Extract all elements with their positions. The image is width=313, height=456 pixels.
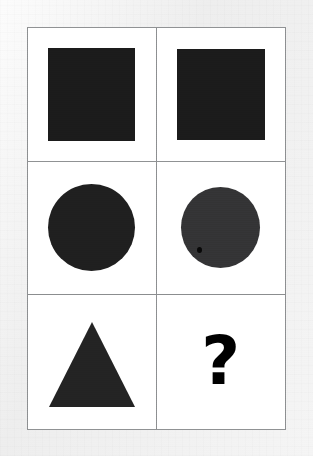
puzzle-cell-row1-col1[interactable] — [28, 28, 157, 162]
puzzle-cell-row2-col1[interactable] — [28, 162, 157, 296]
puzzle-card: ? — [27, 27, 286, 430]
triangle-shape-icon — [49, 322, 135, 407]
puzzle-cell-row2-col2[interactable] — [157, 162, 286, 296]
circle-shape-icon — [181, 187, 260, 268]
puzzle-cell-row3-col2[interactable]: ? — [157, 295, 286, 429]
square-shape-icon — [48, 48, 135, 141]
speck-mark-icon — [197, 247, 202, 253]
puzzle-cell-row1-col2[interactable] — [157, 28, 286, 162]
square-shape-icon — [177, 49, 265, 140]
photo-background: ? — [0, 0, 313, 456]
puzzle-cell-row3-col1[interactable] — [28, 295, 157, 429]
puzzle-grid: ? — [28, 28, 285, 429]
circle-shape-icon — [48, 184, 135, 271]
question-mark-glyph: ? — [201, 328, 240, 395]
